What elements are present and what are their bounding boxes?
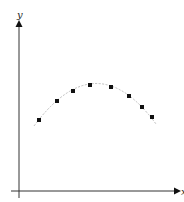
y-axis-arrow-icon bbox=[16, 20, 23, 27]
data-point bbox=[88, 83, 92, 87]
x-axis-arrow-icon bbox=[174, 188, 181, 195]
data-point bbox=[140, 105, 144, 109]
y-axis-label: y bbox=[16, 9, 23, 20]
data-points bbox=[37, 83, 154, 122]
data-point bbox=[71, 89, 75, 93]
data-point bbox=[127, 94, 131, 98]
chart: y x bbox=[0, 0, 184, 202]
data-point bbox=[150, 115, 154, 119]
data-point bbox=[55, 99, 59, 103]
data-point bbox=[109, 85, 113, 89]
x-axis-label: x bbox=[181, 186, 184, 197]
fitted-curve bbox=[34, 83, 156, 126]
x-axis bbox=[11, 188, 181, 195]
y-axis bbox=[16, 20, 23, 198]
data-point bbox=[37, 118, 41, 122]
